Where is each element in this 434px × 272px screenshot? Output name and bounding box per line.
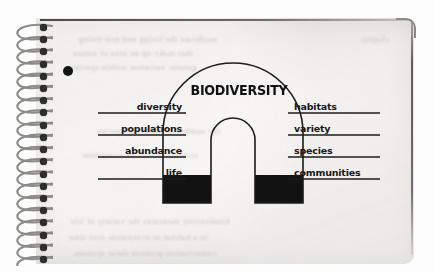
binding-hole [40, 183, 47, 190]
binding-hole [40, 195, 47, 202]
binding-hole [40, 171, 47, 178]
binding-hole [40, 122, 47, 129]
binding-hole [40, 85, 47, 92]
notebook-page [36, 18, 414, 264]
binding-hole [40, 134, 47, 141]
binding-hole [40, 232, 47, 239]
binding-hole [40, 73, 47, 80]
page-top-edge [40, 19, 412, 21]
label-species: species [294, 145, 380, 156]
hole-punch-mark [63, 66, 73, 76]
label-communities: communities [294, 167, 380, 178]
label-habitats: habitats [294, 101, 380, 112]
binding-hole [40, 61, 47, 68]
page-right-edge [411, 21, 413, 255]
notebook-screenshot: moderate the living and non-livingthat m… [0, 0, 434, 272]
label-life: life [98, 167, 182, 178]
binding-hole [40, 256, 47, 263]
binding-hole [40, 244, 47, 251]
label-abundance: abundance [98, 145, 182, 156]
label-diversity: diversity [98, 101, 182, 112]
spiral-binding [8, 16, 60, 266]
paper-texture [36, 18, 414, 264]
label-populations: populations [98, 123, 182, 134]
page-corner-top-right [396, 18, 416, 38]
binding-hole [40, 24, 47, 31]
label-variety: variety [294, 123, 380, 134]
diagram-title: BIODIVERSITY [184, 82, 295, 98]
